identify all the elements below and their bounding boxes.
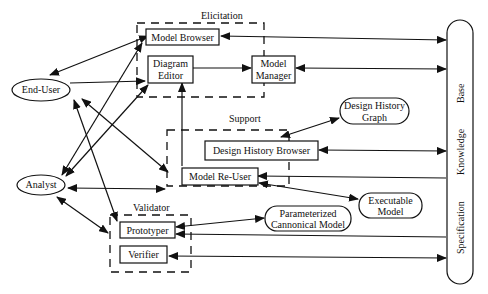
design-history-graph-label-2: Graph	[362, 112, 387, 123]
verifier-label: Verifier	[128, 249, 159, 260]
architecture-diagram: Elicitation Support Validator Specificat…	[0, 0, 488, 294]
design-history-browser-box[interactable]: Design History Browser	[205, 141, 318, 160]
prototyper-label: Prototyper	[126, 225, 169, 236]
diagram-editor-box[interactable]: Diagram Editor	[148, 56, 193, 83]
diagram-editor-label-2: Editor	[158, 70, 184, 81]
specification-knowledge-base[interactable]: Specification Knowledge Base	[447, 20, 473, 284]
model-reuser-box[interactable]: Model Re-User	[182, 168, 258, 185]
kb-word-specification: Specification	[455, 201, 466, 254]
validator-label: Validator	[133, 202, 170, 213]
elicitation-group: Elicitation	[137, 10, 264, 97]
model-browser-label: Model Browser	[151, 32, 214, 43]
model-manager-label-2: Manager	[256, 70, 292, 81]
design-history-graph-node[interactable]: Design History Graph	[340, 98, 409, 124]
support-label: Support	[229, 113, 261, 124]
end-user-label: End-User	[22, 84, 61, 95]
model-manager-label-1: Model	[260, 58, 286, 69]
executable-model-label-1: Executable	[368, 195, 413, 206]
verifier-box[interactable]: Verifier	[120, 246, 167, 263]
kb-word-knowledge: Knowledge	[455, 128, 466, 175]
elicitation-label: Elicitation	[201, 10, 243, 21]
diagram-editor-label-1: Diagram	[153, 58, 188, 69]
model-reuser-label: Model Re-User	[189, 171, 252, 182]
executable-model-node[interactable]: Executable Model	[359, 193, 422, 218]
model-browser-box[interactable]: Model Browser	[146, 29, 219, 45]
model-manager-box[interactable]: Model Manager	[252, 56, 295, 83]
design-history-browser-label: Design History Browser	[213, 145, 311, 156]
parameterized-cannonical-model-node[interactable]: Parameterized Cannonical Model	[265, 206, 351, 231]
param-model-label-2: Cannonical Model	[271, 219, 345, 230]
analyst-label: Analyst	[25, 179, 56, 190]
actor-analyst[interactable]: Analyst	[17, 175, 65, 195]
design-history-graph-label-1: Design History	[344, 100, 405, 111]
actor-end-user[interactable]: End-User	[12, 79, 70, 101]
prototyper-box[interactable]: Prototyper	[120, 222, 175, 238]
param-model-label-1: Parameterized	[279, 208, 336, 219]
kb-word-base: Base	[455, 83, 466, 103]
executable-model-label-2: Model	[377, 206, 403, 217]
